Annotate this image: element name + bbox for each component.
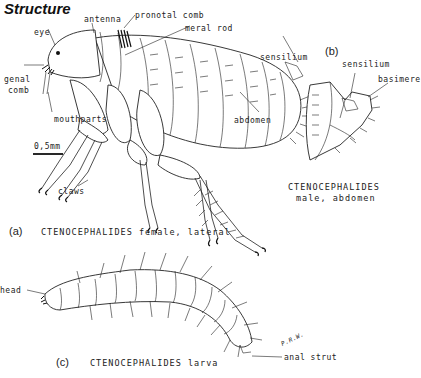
label-scale-bar: 0,5mm <box>34 142 61 151</box>
label-mouthparts: mouthparts <box>54 115 107 124</box>
panel-b-caption-line1: CTENOCEPHALIDES <box>288 182 380 192</box>
label-antenna: antenna <box>84 15 121 24</box>
label-anal-strut: anal strut <box>284 353 337 362</box>
larva-drawing <box>27 252 282 357</box>
panel-b-caption-line2: male, abdomen <box>296 193 376 203</box>
label-pronotal-comb: pronotal comb <box>135 11 204 20</box>
label-claws: claws <box>58 187 85 196</box>
label-b-sensilium: sensilium <box>342 60 390 69</box>
label-meral-rod: meral rod <box>185 24 233 33</box>
label-genal: genal <box>4 75 31 84</box>
panel-a-marker: (a) <box>9 225 22 237</box>
panel-c-caption: CTENOCEPHALIDES larva <box>90 358 218 368</box>
label-head: head <box>0 286 21 295</box>
label-abdomen: abdomen <box>234 116 271 125</box>
panel-a-caption: CTENOCEPHALIDES female, lateral <box>41 227 231 237</box>
panel-c-marker: (c) <box>56 356 69 368</box>
label-basimere: basimere <box>378 75 421 84</box>
label-comb: comb <box>8 86 29 95</box>
panel-b-marker: (b) <box>325 45 338 57</box>
label-sensilium: sensilium <box>260 53 308 62</box>
male-abdomen-drawing <box>306 73 388 160</box>
label-eye: eye <box>34 28 50 37</box>
adult-flea-drawing <box>24 15 312 256</box>
